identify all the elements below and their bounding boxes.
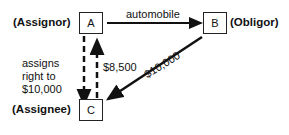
assignee-label: (Assignee) (12, 103, 71, 115)
assigns-label-line3: $10,000 (22, 83, 62, 95)
node-b: B (203, 12, 227, 34)
automobile-label: automobile (126, 8, 180, 20)
assignor-label: (Assignor) (13, 16, 71, 28)
assigns-label-line2: right to (22, 70, 56, 82)
assigns-label-line1: assigns (22, 57, 59, 69)
obligor-label: (Obligor) (230, 16, 279, 28)
node-c: C (79, 99, 103, 121)
node-a: A (79, 12, 103, 34)
payment-8500-label: $8,500 (103, 61, 137, 73)
